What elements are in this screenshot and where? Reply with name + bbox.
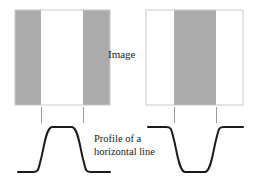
profile-label-line-2: horizontal line bbox=[94, 146, 155, 159]
mach-band-figure: Image Profile of a horizontal line bbox=[0, 0, 255, 184]
right-profile-curve bbox=[148, 127, 243, 172]
profile-label-line-1: Profile of a bbox=[94, 133, 141, 144]
right-left-white-band bbox=[146, 10, 174, 105]
image-label: Image bbox=[108, 48, 135, 61]
right-center-gray-band bbox=[174, 10, 216, 105]
profile-label: Profile of a horizontal line bbox=[94, 133, 155, 159]
right-panel-ticks bbox=[175, 107, 217, 123]
left-center-white-band bbox=[41, 10, 83, 105]
right-panel-image-square bbox=[146, 10, 243, 105]
left-gray-band bbox=[15, 10, 41, 105]
left-panel-ticks bbox=[42, 107, 84, 123]
left-panel-image-square bbox=[15, 10, 110, 105]
left-right-gray-band bbox=[83, 10, 110, 105]
right-right-white-band bbox=[216, 10, 243, 105]
